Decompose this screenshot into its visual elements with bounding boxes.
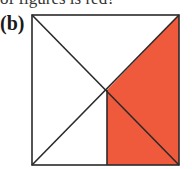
shaded-region (107, 15, 179, 165)
square-diagram (0, 0, 192, 169)
